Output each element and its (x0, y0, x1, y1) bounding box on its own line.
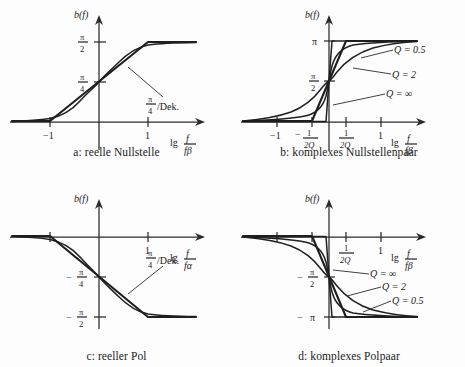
y-tick-label-negpi4-den-c: 4 (79, 279, 84, 289)
leader-q2-b (353, 68, 391, 74)
y-tick-label-pi2-num-b: π (311, 71, 316, 81)
curve-label-q2-d: Q = 2 (382, 281, 406, 292)
y-tick-label-negpi4-minus-c: − (66, 272, 72, 283)
curve-label-q05-d: Q = 0.5 (392, 295, 423, 306)
x-axis-label-num-d: f (407, 248, 411, 259)
x-tick-label-half-q-num-d: 1 (344, 243, 348, 253)
y-tick-label-negpi2-minus-d: − (297, 272, 303, 283)
x-axis-label-lg-d: lg (391, 252, 399, 263)
y-tick-label-pi4-num-a: π (80, 72, 85, 82)
panel-a: b(f) lg f fβ −1 1 π 2 π 4 (0, 0, 233, 184)
x-axis-label-num-b: f (407, 133, 411, 144)
x-tick-label-neg1-b: −1 (270, 130, 281, 141)
slope-annotation-a: π 4 /Dek. (146, 94, 179, 116)
x-tick-label-neg-half-q-minus-b: − (295, 129, 301, 140)
y-tick-label-pi2-den-b: 2 (311, 83, 315, 93)
y-tick-label-negpi2-num-c: π (79, 307, 84, 317)
x-axis-label-num-a: f (186, 133, 190, 144)
panel-c-caption: c: reeller Pol (0, 350, 233, 362)
curve-label-qinf-b: Q = ∞ (386, 88, 412, 99)
leader-qinf-b (333, 94, 385, 105)
panel-d: b(f) lg f fβ 1 1 2Q − π 2 − π (233, 184, 465, 367)
y-tick-label-negpi4-num-c: π (79, 267, 84, 277)
y-tick-label-negpi2-minus-c: − (66, 312, 72, 323)
panel-b-caption: b: komplexes Nullstellenpaar (233, 146, 465, 158)
panel-c-plot: b(f) lg f fα 1 − π 4 − π 2 π (0, 184, 233, 367)
curve-label-qinf-d: Q = ∞ (370, 268, 396, 279)
x-tick-label-neg1-a: −1 (43, 130, 54, 141)
x-tick-label-1-d: 1 (378, 245, 383, 256)
phase-response-figure: b(f) lg f fβ −1 1 π 2 π 4 (0, 0, 465, 367)
x-tick-label-neg-half-q-num-b: 1 (307, 128, 311, 138)
y-axis-label-a: b(f) (74, 9, 89, 21)
panel-d-caption: d: komplexes Polpaar (233, 350, 465, 362)
x-tick-label-half-q-num-b: 1 (344, 128, 348, 138)
y-tick-label-pi2-a: π 2 (78, 32, 88, 54)
curve-label-q2-b: Q = 2 (392, 69, 416, 80)
y-tick-label-negpi2-den-c: 2 (79, 319, 83, 329)
y-tick-label-negpi-minus-d: − (297, 312, 303, 323)
slope-annotation-suffix-a: /Dek. (157, 101, 179, 112)
slope-annotation-suffix-c: /Dek. (157, 255, 179, 266)
x-axis-label-num-c: f (186, 248, 190, 259)
x-tick-label-1-b: 1 (378, 130, 383, 141)
annotation-leader-c (128, 266, 163, 294)
y-tick-label-pi-b: π (312, 36, 317, 47)
slope-annotation-num-c: π (148, 248, 153, 258)
slope-annotation-den-c: 4 (148, 260, 153, 270)
leader-qinf-d (333, 270, 369, 274)
x-tick-label-half-q-den-d: 2Q (340, 255, 350, 265)
y-tick-label-negpi2-num-d: π (310, 267, 315, 277)
x-axis-label-den-c: fα (184, 260, 193, 271)
annotation-leader-a (128, 67, 163, 97)
x-tick-label-half-q-d: 1 2Q (339, 243, 354, 265)
y-tick-label-negpi-d: − π (297, 312, 315, 323)
y-tick-label-negpi2-den-d: 2 (310, 279, 314, 289)
x-axis-label-den-d: fβ (405, 260, 413, 271)
panel-c: b(f) lg f fα 1 − π 4 − π 2 π (0, 184, 233, 367)
y-tick-label-negpi2-d: − π 2 (297, 267, 318, 289)
panel-d-plot: b(f) lg f fβ 1 1 2Q − π 2 − π (233, 184, 465, 367)
y-tick-label-pi2-den-a: 2 (80, 44, 84, 54)
leader-q2-d (347, 287, 381, 296)
slope-annotation-num-a: π (148, 94, 153, 104)
x-tick-label-1-a: 1 (145, 130, 150, 141)
y-tick-label-negpi4-c: − π 4 (66, 267, 87, 289)
y-tick-label-negpi2-c: − π 2 (66, 307, 87, 329)
slope-annotation-den-a: 4 (148, 106, 153, 116)
y-axis-label-b: b(f) (305, 9, 320, 21)
y-tick-label-negpi-pi-d: π (310, 312, 315, 323)
panel-a-caption: a: reelle Nullstelle (0, 146, 233, 158)
y-axis-label-c: b(f) (74, 193, 89, 205)
y-tick-label-pi2-b: π 2 (309, 71, 319, 93)
y-tick-label-pi2-num-a: π (80, 32, 85, 42)
y-axis-label-d: b(f) (305, 193, 320, 205)
panel-b: b(f) lg f fβ −1 1 − 1 2Q 1 2Q π (233, 0, 465, 184)
curve-label-q05-b: Q = 0.5 (394, 44, 425, 55)
